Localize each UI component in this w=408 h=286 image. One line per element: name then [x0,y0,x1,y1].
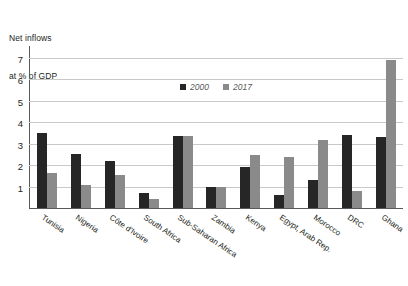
x-tick-label: Tunisia [40,213,66,235]
y-tick-label: 4 [18,118,23,129]
plot-area: 1234567 20002017 [29,46,403,209]
bar [149,199,159,208]
x-label-slot: South Africa [132,210,166,286]
y-tick-label: 1 [18,182,23,193]
bar-group [267,46,301,208]
bar [386,60,396,208]
y-axis-title-line-1: Net inflows [9,32,57,45]
bar-series-container [30,46,403,208]
bar-group [200,46,234,208]
x-label-slot: Nigeria [64,210,98,286]
x-label-slot: Egypt, Arab Rep. [268,210,302,286]
bar-group [335,46,369,208]
x-label-slot: Tunisia [30,210,64,286]
x-label-slot: Côte d'Ivoire [98,210,132,286]
bar [342,135,352,208]
bar [274,195,284,208]
bar-group [369,46,403,208]
bar-group [30,46,64,208]
x-tick-label: DRC [346,213,365,230]
bar [284,157,294,208]
bar [352,191,362,208]
x-tick-label: Kenya [244,213,268,233]
x-label-slot: Morocco [302,210,336,286]
x-label-slot: Kenya [234,210,268,286]
bar [47,173,57,208]
x-label-slot: Zambia [200,210,234,286]
bar [139,193,149,208]
bar [240,167,250,208]
x-axis-line [29,208,403,209]
y-tick-label: 6 [18,75,23,86]
y-tick-label: 7 [18,53,23,64]
bar [183,136,193,208]
bar [376,137,386,208]
bar-group [233,46,267,208]
bar-group [132,46,166,208]
bar [105,161,115,208]
bar [308,180,318,208]
y-tick-label: 3 [18,139,23,150]
bar [318,140,328,208]
bar [115,175,125,208]
bar-group [166,46,200,208]
bar [173,136,183,208]
bar [216,187,226,208]
x-label-slot: Ghana [370,210,404,286]
y-tick-label: 2 [18,161,23,172]
bar-group [64,46,98,208]
bar [37,133,47,208]
x-tick-label: Nigeria [74,213,100,235]
y-tick-label: 5 [18,96,23,107]
bar-group [98,46,132,208]
bar [81,185,91,208]
x-label-slot: DRC [336,210,370,286]
bar [71,154,81,208]
bar [250,155,260,208]
x-label-slot: Sub-Saharan Africa [166,210,200,286]
x-axis-tick-labels: TunisiaNigeriaCôte d'IvoireSouth AfricaS… [30,210,404,286]
bar-group [301,46,335,208]
x-tick-label: Ghana [380,213,405,234]
bar [206,187,216,208]
